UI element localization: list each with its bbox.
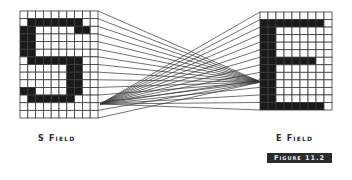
figure-badge: Figure 11.2 [267,153,332,163]
e-field-grid [260,12,332,110]
s-field-label: S Field [38,134,76,143]
s-field-grid [20,11,98,118]
e-field-label: E Field [276,134,313,143]
connection-lines [98,11,261,118]
